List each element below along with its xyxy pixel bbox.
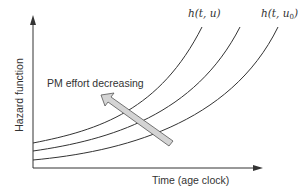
axes: [30, 15, 263, 171]
curve-label-suffix: ): [293, 7, 298, 19]
curve-label-h-t-u0: h(t, u0): [261, 7, 298, 21]
curve-h-t-u0: [33, 27, 278, 160]
hazard-curves: [33, 27, 278, 160]
curve-label-prefix: h(t, u: [261, 7, 290, 19]
x-axis-label: Time (age clock): [152, 174, 229, 186]
curve-intermediate: [33, 27, 240, 151]
hazard-diagram: PM effort decreasing Hazard function Tim…: [0, 0, 305, 191]
y-axis-arrowhead-icon: [30, 15, 36, 25]
curve-label-h-t-u: h(t, u): [188, 7, 221, 19]
annotation-pm-effort: PM effort decreasing: [47, 77, 144, 89]
x-axis-arrowhead-icon: [253, 165, 263, 171]
y-axis-label: Hazard function: [13, 58, 25, 132]
